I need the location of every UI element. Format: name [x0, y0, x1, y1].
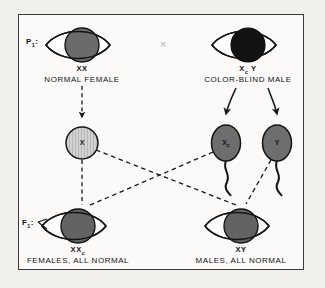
line-spermxc-to-f1-females: [88, 152, 213, 206]
parental-tag-subscript: 1: [32, 42, 35, 48]
parent-genotype-normal-female: XX: [62, 65, 102, 73]
f1-tag-subscript: 1: [27, 223, 30, 229]
parent-genotype-text-0: XX: [76, 64, 87, 73]
parent-genotype-tail-1: Y: [251, 64, 257, 73]
offspring-description-f1-females: FEMALES, ALL NORMAL: [21, 257, 135, 265]
offspring-genotype-sub-0: c: [82, 250, 86, 256]
gamete-sperm-xc: [212, 125, 241, 196]
cross-symbol: ×: [160, 39, 167, 51]
generation-tag-parental: P1:: [26, 38, 38, 48]
parent-eye-color-blind-male: [212, 28, 276, 62]
offspring-genotype-text-1: XY: [235, 245, 246, 254]
line-spermy-to-f1-males: [246, 160, 271, 204]
offspring-genotype-f1-males: XY: [221, 246, 261, 254]
gamete-sperm-y: [263, 125, 292, 196]
parent-genotype-sub-1: c: [245, 69, 249, 75]
offspring-genotype-text-0: XX: [71, 245, 82, 254]
offspring-description-f1-males: MALES, ALL NORMAL: [184, 257, 298, 265]
parent-genotype-color-blind-male: Xc Y: [228, 65, 268, 75]
gamete-label-text-0: X: [80, 139, 85, 146]
parent-description-color-blind-male: COLOR-BLIND MALE: [191, 76, 305, 84]
figure-stage: P1: × XX NORMAL FEMALE Xc Y COLOR-BLIND …: [0, 0, 325, 288]
arrow-male-to-sperm-y: [268, 88, 277, 114]
offspring-genotype-f1-females: XXc: [58, 246, 98, 256]
parent-description-normal-female: NORMAL FEMALE: [25, 76, 139, 84]
line-egg-to-f1-males: [96, 150, 236, 205]
gamete-label-sperm-xc: Xc: [216, 139, 236, 148]
gamete-label-text-2: Y: [275, 139, 280, 146]
generation-tag-f1: F1:: [22, 219, 34, 229]
parent-eye-normal-female: [46, 28, 110, 62]
arrow-male-to-sperm-xc: [226, 88, 236, 114]
gamete-label-egg-x: X: [72, 139, 92, 146]
offspring-eye-f1-females: [42, 209, 106, 243]
gamete-label-sub-1: c: [227, 142, 230, 148]
offspring-eye-f1-males: [205, 209, 269, 243]
gamete-label-sperm-y: Y: [267, 139, 287, 146]
